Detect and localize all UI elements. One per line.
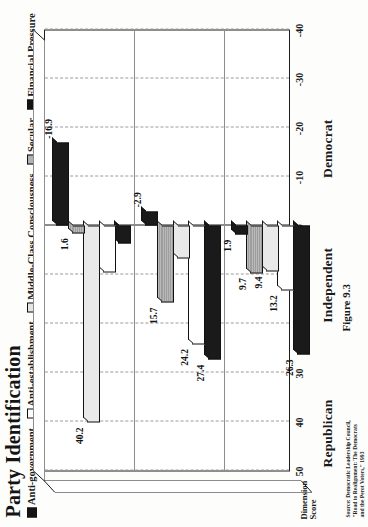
group-separator [134, 30, 135, 470]
axis-tick-label: 50 [294, 466, 305, 476]
legend-item: Financial Pressure [26, 13, 37, 109]
gridline [45, 420, 289, 421]
bar [87, 225, 100, 422]
axis-tick-label: -40 [294, 23, 305, 36]
legend-item: Middle-Class Consciousness [26, 173, 37, 312]
legend-swatch-icon [27, 507, 37, 517]
bar [56, 142, 69, 225]
bar-value-label: 1.9 [224, 236, 234, 251]
gridline [45, 126, 289, 127]
gridline [45, 469, 289, 470]
bar-value-label: 24.2 [181, 346, 191, 366]
bar [192, 225, 205, 344]
legend-item: Anti-government [26, 428, 37, 518]
axis-title-line2: Score [309, 480, 318, 519]
bar [208, 225, 221, 359]
gridline [45, 77, 289, 78]
plot-left-face [44, 480, 312, 492]
bar-value-label: 9.4 [255, 273, 265, 288]
axis-tick-label: 30 [294, 368, 305, 378]
bar [145, 211, 158, 225]
axis-tick-label: 20 [294, 319, 305, 329]
bar [250, 225, 263, 273]
bar-value-label: 13.2 [270, 292, 280, 312]
gridline [45, 371, 289, 372]
bar-value-label: 40.2 [76, 424, 86, 444]
axis-tick-label: 10 [294, 270, 305, 280]
source-note: Source: Democratic Leadership Council, "… [345, 420, 366, 517]
bar [177, 225, 190, 258]
legend-swatch-icon [27, 302, 37, 312]
bar [118, 225, 131, 243]
bar-value-label: 9.7 [239, 275, 249, 290]
axis-tick-label: 0 [294, 224, 305, 229]
x-axis: 50403020100-10-20-30-40 [290, 29, 312, 471]
legend-swatch-icon [27, 409, 37, 419]
figure-caption: Figure 9.3 [340, 284, 352, 331]
axis-tick-label: -10 [294, 170, 305, 183]
bar-value-label: 15.7 [150, 304, 160, 324]
legend-item: Secular [26, 118, 37, 164]
legend-label: Financial Pressure [26, 13, 37, 96]
page-title: Party Identification [2, 345, 25, 517]
bar-value-label: 27.4 [197, 361, 207, 381]
bar [72, 225, 85, 233]
bar-value-label: -16.9 [45, 118, 55, 138]
bar [266, 225, 279, 271]
chart-legend: Anti-governmentAnti-establishmentMiddle-… [26, 13, 37, 517]
legend-label: Secular [26, 118, 37, 152]
category-label: Independent [320, 247, 336, 322]
legend-label: Anti-establishment [26, 321, 37, 406]
bar [235, 225, 248, 234]
figure-page: Party Identification Anti-governmentAnti… [0, 0, 368, 527]
legend-label: Anti-government [26, 428, 37, 505]
gridline [45, 28, 289, 29]
plot-area: 26.313.29.49.71.927.424.26.715.7-2.93.69… [44, 29, 312, 481]
figure-sheet: Party Identification Anti-governmentAnti… [0, 0, 368, 527]
plot-wall: 26.313.29.49.71.927.424.26.715.7-2.93.69… [44, 29, 290, 471]
bar [103, 225, 116, 272]
category-label: Democrat [320, 119, 336, 178]
axis-tick-label: 40 [294, 417, 305, 427]
bar-value-label: -2.9 [134, 192, 144, 207]
axis-tick-label: -30 [294, 72, 305, 85]
legend-label: Middle-Class Consciousness [26, 173, 37, 299]
gridline [45, 175, 289, 176]
bar-value-label: 1.6 [61, 235, 71, 250]
legend-swatch-icon [27, 154, 37, 164]
legend-swatch-icon [27, 99, 37, 109]
bar [161, 225, 174, 302]
category-label: Republican [320, 399, 336, 467]
axis-tick-label: -20 [294, 121, 305, 134]
legend-item: Anti-establishment [26, 321, 37, 419]
gridline [45, 322, 289, 323]
